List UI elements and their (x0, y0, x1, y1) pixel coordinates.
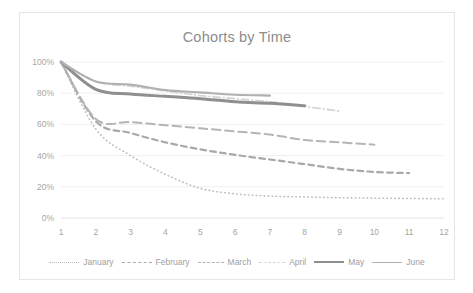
legend-label: January (83, 257, 113, 267)
x-axis-tick-label: 3 (128, 227, 133, 237)
legend-swatch-april (259, 262, 285, 263)
legend-item-april[interactable]: April (259, 257, 306, 267)
legend-label: May (348, 257, 364, 267)
x-axis-tick-label: 4 (163, 227, 168, 237)
legend-swatch-february (122, 262, 152, 263)
legend-item-june[interactable]: June (372, 257, 424, 267)
series-line-may (61, 62, 305, 106)
legend-label: March (228, 257, 252, 267)
series-line-june (61, 62, 270, 96)
y-axis-tick-label: 80% (37, 88, 54, 98)
legend-swatch-june (372, 262, 402, 263)
x-axis-tick-label: 2 (93, 227, 98, 237)
y-axis-tick-label: 20% (37, 182, 54, 192)
legend-item-may[interactable]: May (314, 257, 364, 267)
legend-swatch-january (49, 262, 79, 263)
legend-swatch-march (198, 262, 224, 263)
x-axis-tick-label: 5 (198, 227, 203, 237)
y-axis-tick-label: 60% (37, 119, 54, 129)
y-axis-tick-label: 100% (32, 57, 54, 67)
x-axis-tick-label: 9 (337, 227, 342, 237)
legend-item-march[interactable]: March (198, 257, 252, 267)
x-axis-tick-label: 1 (59, 227, 64, 237)
x-axis-tick-label: 10 (370, 227, 380, 237)
legend-label: April (289, 257, 306, 267)
x-axis-tick-label: 12 (439, 227, 449, 237)
chart-legend: JanuaryFebruaryMarchAprilMayJune (20, 257, 454, 267)
y-axis-tick-label: 40% (37, 151, 54, 161)
x-axis-tick-label: 7 (268, 227, 273, 237)
x-axis-tick-label: 11 (405, 227, 414, 237)
legend-label: February (156, 257, 190, 267)
legend-swatch-may (314, 261, 344, 263)
x-axis-tick-label: 6 (233, 227, 238, 237)
chart-container: Cohorts by Time 0%20%40%60%80%100%123456… (19, 12, 455, 280)
legend-label: June (406, 257, 424, 267)
y-axis-tick-label: 0% (42, 213, 55, 223)
legend-item-january[interactable]: January (49, 257, 113, 267)
legend-item-february[interactable]: February (122, 257, 190, 267)
series-line-february (61, 62, 409, 173)
series-line-march (61, 62, 374, 145)
x-axis-tick-label: 8 (302, 227, 307, 237)
chart-plot-area: 0%20%40%60%80%100%123456789101112 (20, 13, 454, 279)
